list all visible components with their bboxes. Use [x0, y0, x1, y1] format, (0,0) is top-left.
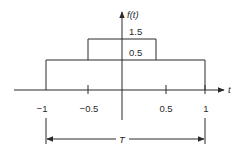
t-axis-label: t: [228, 84, 231, 95]
pulse-waveform-diagram: t f(t) 1.5 0.5 −1 −0.5 0.5 1 T: [0, 0, 244, 153]
tick-label-0.5: 0.5: [159, 103, 172, 114]
level-label-1.5: 1.5: [129, 26, 142, 37]
tick-label-1: 1: [203, 103, 208, 114]
period-label: T: [119, 134, 126, 145]
tick-label-neg-1: −1: [37, 103, 48, 114]
waveform-low-step: [46, 60, 88, 90]
level-label-0.5: 0.5: [129, 47, 142, 58]
waveform-low-step-right: [156, 60, 205, 90]
f-axis-label: f(t): [127, 9, 139, 20]
tick-label-neg-0.5: −0.5: [80, 103, 99, 114]
